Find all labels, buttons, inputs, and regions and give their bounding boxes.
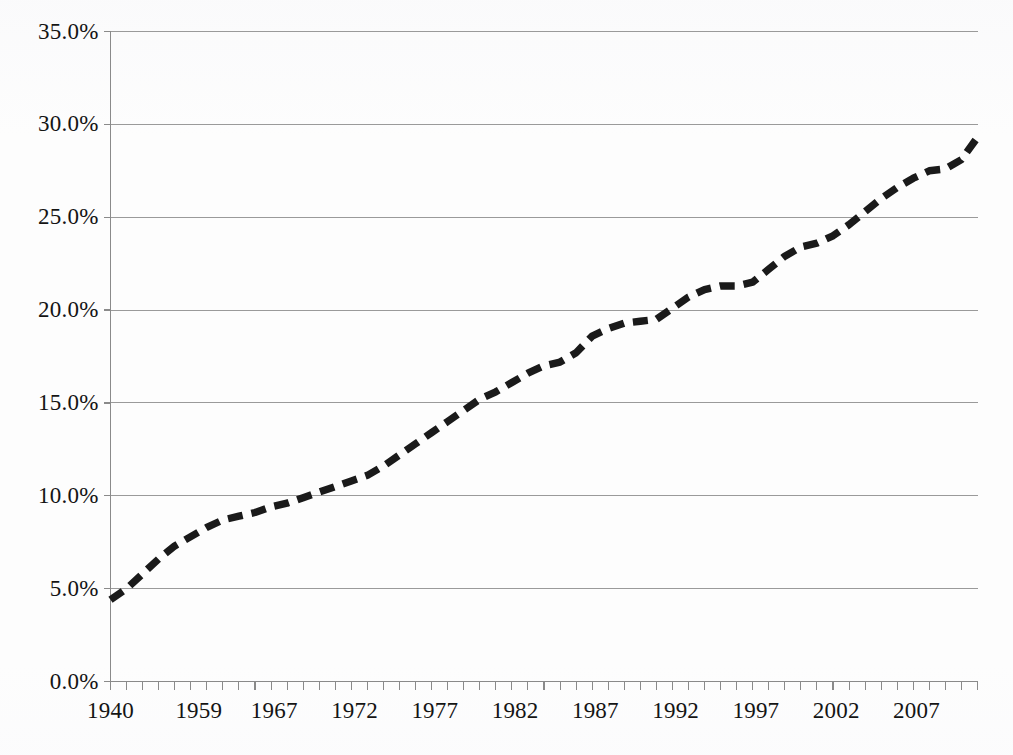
- x-axis-tick-label: 1977: [411, 698, 458, 724]
- gridlines: [111, 32, 978, 589]
- x-axis-tick-label: 1987: [572, 698, 619, 724]
- data-series-line: [111, 137, 978, 599]
- y-axis-tick-label: 20.0%: [38, 297, 98, 323]
- y-axis-tick-label: 15.0%: [38, 390, 98, 416]
- y-axis-tick-label: 0.0%: [50, 669, 99, 695]
- x-axis-tick-label: 1967: [251, 698, 298, 724]
- x-axis-tick-label: 1997: [733, 698, 780, 724]
- y-axis-ticks: [104, 32, 111, 682]
- y-axis-tick-label: 35.0%: [38, 19, 98, 45]
- y-axis-tick-label: 5.0%: [50, 576, 99, 602]
- line-chart-plot: [0, 0, 1013, 755]
- y-axis-tick-label: 30.0%: [38, 111, 98, 137]
- x-axis-tick-label: 1972: [331, 698, 378, 724]
- y-axis-tick-label: 10.0%: [38, 483, 98, 509]
- x-axis-tick-label: 2007: [893, 698, 940, 724]
- x-axis-tick-label: 1959: [175, 698, 222, 724]
- chart-container: 0.0%5.0%10.0%15.0%20.0%25.0%30.0%35.0% 1…: [0, 0, 1013, 755]
- x-axis-tick-label: 1940: [87, 698, 134, 724]
- x-axis-tick-label: 1992: [652, 698, 699, 724]
- x-axis-tick-label: 2002: [813, 698, 860, 724]
- axis-lines: [111, 31, 978, 682]
- x-axis-ticks: [111, 682, 978, 690]
- y-axis-tick-label: 25.0%: [38, 204, 98, 230]
- x-axis-tick-label: 1982: [492, 698, 539, 724]
